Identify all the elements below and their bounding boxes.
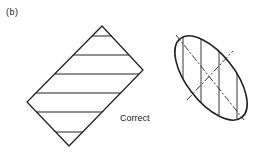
ellipse-outline: [161, 24, 258, 132]
rectangle-outline: [27, 26, 143, 146]
hatched-rectangle-section: [0, 26, 160, 146]
figure-canvas: [0, 0, 258, 156]
major-axis-centerline: [176, 35, 244, 120]
panel-label: (b): [6, 7, 19, 17]
minor-axis-centerline: [187, 51, 233, 100]
ellipse-hatch-lines: [183, 20, 237, 140]
figure-caption: Correct: [120, 113, 150, 123]
hatched-ellipse-section: [161, 20, 258, 140]
